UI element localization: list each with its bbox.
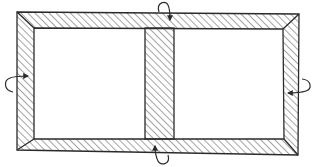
- center-mullion: [145, 28, 174, 139]
- diagram-canvas: Hatched window frame with central mullio…: [0, 0, 313, 167]
- frame-diagram-svg: [0, 0, 313, 167]
